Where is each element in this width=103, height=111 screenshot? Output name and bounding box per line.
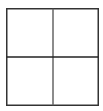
grid-2x2-icon bbox=[6, 8, 99, 106]
